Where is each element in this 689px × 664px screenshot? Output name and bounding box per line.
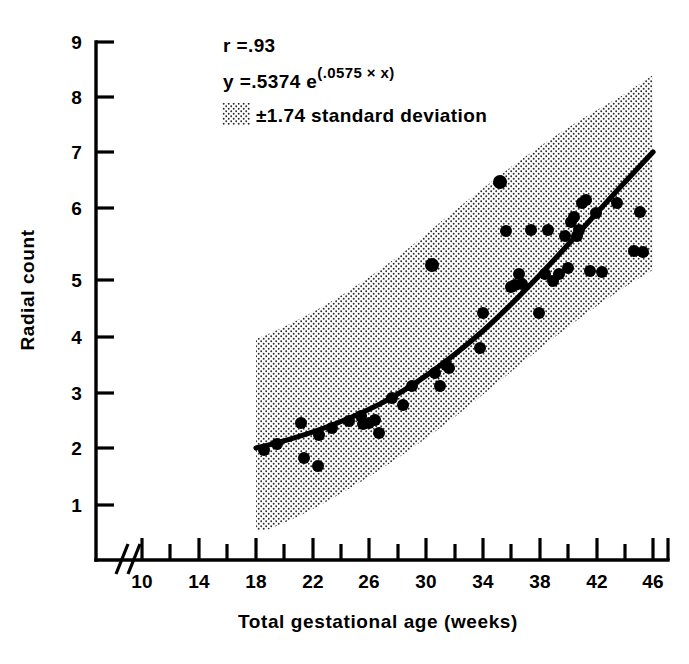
y-axis-title: Radial count xyxy=(17,229,38,350)
x-tick-label-46: 46 xyxy=(642,571,664,592)
x-axis: 10 14 18 22 26 30 34 38 42 46 Total gest… xyxy=(96,538,668,632)
y-tick-label-1: 1 xyxy=(71,495,82,516)
y-tick-label-3: 3 xyxy=(71,383,82,404)
y-tick-label-9: 9 xyxy=(71,32,82,53)
y-tick-label-7: 7 xyxy=(71,142,82,163)
x-tick-label-34: 34 xyxy=(472,571,494,592)
equation-exponent: (.0575 × x) xyxy=(317,64,394,81)
band-legend-label: ±1.74 standard deviation xyxy=(256,105,487,126)
x-tick-label-10: 10 xyxy=(131,571,153,592)
equation-annotation: y =.5374 e(.0575 × x) xyxy=(223,64,395,92)
annotation-block: r =.93 y =.5374 e(.0575 × x) ±1.74 stand… xyxy=(222,35,487,126)
x-tick-label-26: 26 xyxy=(358,571,380,592)
x-tick-label-18: 18 xyxy=(245,571,267,592)
correlation-annotation: r =.93 xyxy=(223,35,276,56)
x-tick-label-14: 14 xyxy=(188,571,210,592)
y-tick-label-4: 4 xyxy=(71,327,82,348)
x-tick-label-22: 22 xyxy=(302,571,324,592)
x-tick-label-42: 42 xyxy=(586,571,608,592)
x-tick-label-30: 30 xyxy=(415,571,437,592)
y-tick-label-2: 2 xyxy=(71,438,82,459)
equation-main: y =.5374 e xyxy=(223,71,317,92)
y-axis: 9 8 7 6 5 4 3 2 1 Radial count xyxy=(17,32,114,560)
y-tick-label-8: 8 xyxy=(71,87,82,108)
chart-figure: 9 8 7 6 5 4 3 2 1 Radial count 10 xyxy=(0,0,689,664)
x-axis-title: Total gestational age (weeks) xyxy=(238,611,518,632)
y-tick-label-6: 6 xyxy=(71,198,82,219)
band-legend-swatch xyxy=(222,103,250,125)
x-tick-label-38: 38 xyxy=(529,571,551,592)
y-tick-label-5: 5 xyxy=(71,270,82,291)
chart-svg: 9 8 7 6 5 4 3 2 1 Radial count 10 xyxy=(0,0,689,664)
